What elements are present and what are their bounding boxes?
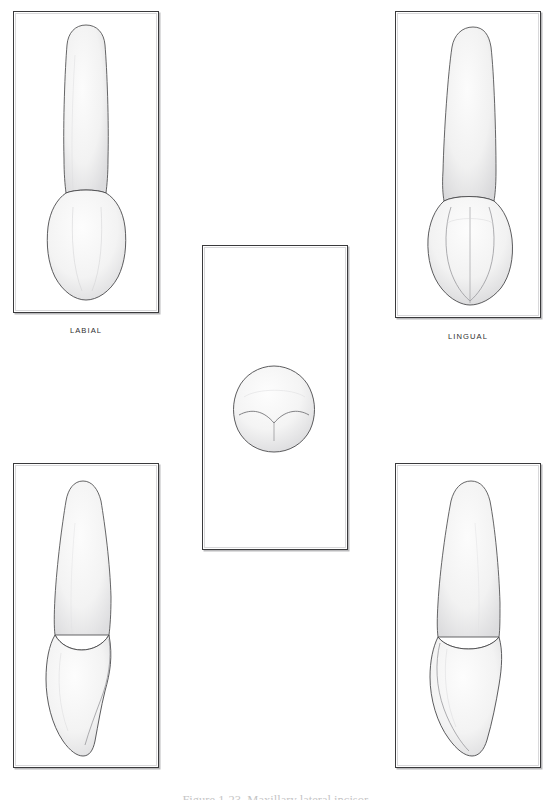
view-label-labial: LABIAL (13, 326, 159, 335)
distal-crown (430, 637, 502, 756)
figure-caption: Figure 1-23. Maxillary lateral incisor. (0, 789, 553, 800)
tooth-drawing-distal (395, 463, 541, 768)
distal-root (437, 481, 500, 637)
labial-root (64, 25, 109, 193)
mesial-crown (46, 635, 111, 756)
mesial-root (54, 481, 111, 635)
view-panel-mesial: MESIAL (13, 463, 159, 768)
tooth-anatomy-plate: LABIAL (0, 0, 553, 800)
view-label-lingual: LINGUAL (395, 332, 541, 341)
labial-crown (47, 190, 125, 300)
tooth-drawing-mesial (13, 463, 159, 768)
tooth-drawing-lingual (395, 11, 541, 318)
tooth-drawing-labial (13, 11, 159, 313)
tooth-drawing-incisal (202, 245, 348, 550)
view-panel-distal: DISTAL (395, 463, 541, 768)
view-panel-labial: LABIAL (13, 11, 159, 313)
lingual-root (443, 27, 496, 201)
view-panel-lingual: LINGUAL (395, 11, 541, 318)
view-panel-incisal: INCISAL (202, 245, 348, 550)
